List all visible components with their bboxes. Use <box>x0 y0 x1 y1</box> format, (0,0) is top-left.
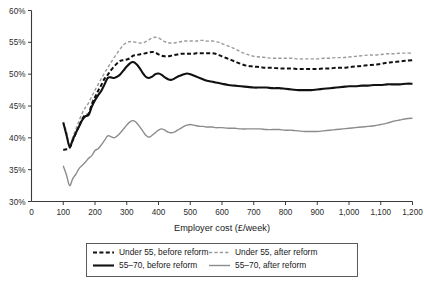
legend-label: 55–70, before reform <box>119 260 197 270</box>
y-tick-label: 30% <box>9 198 25 207</box>
y-tick-label: 50% <box>9 70 25 79</box>
line-chart: 30%35%40%45%50%55%60% 010020030040050060… <box>0 0 424 281</box>
x-tick-label: 0 <box>29 208 34 217</box>
series-line <box>63 118 412 186</box>
series-lines <box>63 37 412 185</box>
series-line <box>63 62 412 147</box>
x-tick-label: 400 <box>152 208 166 217</box>
y-tick-label: 60% <box>9 7 25 16</box>
x-tick-label: 300 <box>120 208 134 217</box>
legend-label: 55–70, after reform <box>235 260 306 270</box>
y-tick-label: 55% <box>9 38 25 47</box>
x-tick-label: 500 <box>183 208 197 217</box>
y-tick-label: 45% <box>9 102 25 111</box>
series-line <box>63 52 412 150</box>
x-tick-label: 900 <box>310 208 324 217</box>
x-axis-ticks: 01002003004005006007008009001,0001,1001,… <box>29 202 423 217</box>
x-tick-label: 200 <box>88 208 102 217</box>
x-tick-label: 600 <box>215 208 229 217</box>
x-tick-label: 100 <box>56 208 70 217</box>
x-tick-label: 700 <box>247 208 261 217</box>
legend-label: Under 55, before reform <box>119 247 208 257</box>
x-tick-label: 1,100 <box>371 208 392 217</box>
x-axis-title: Employer cost (£/week) <box>174 223 270 233</box>
series-line <box>63 37 412 146</box>
x-tick-label: 1,200 <box>402 208 423 217</box>
x-tick-label: 800 <box>279 208 293 217</box>
chart-figure: 30%35%40%45%50%55%60% 010020030040050060… <box>0 0 424 281</box>
legend-label: Under 55, after reform <box>235 247 317 257</box>
y-tick-label: 40% <box>9 134 25 143</box>
y-tick-label: 35% <box>9 166 25 175</box>
y-axis-ticks: 30%35%40%45%50%55%60% <box>9 7 31 207</box>
x-tick-label: 1,000 <box>339 208 360 217</box>
